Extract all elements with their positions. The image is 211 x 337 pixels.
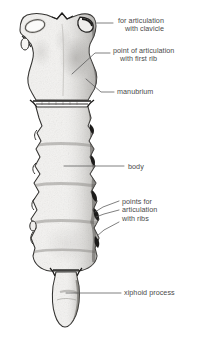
- label-point-of-articulation-with-first-rib: point of articulationwith first rib: [113, 47, 174, 64]
- label-xiphoid-process: xiphoid process: [124, 289, 175, 297]
- sternum-body-shape: [28, 104, 104, 276]
- costal-notch-left-facet: [30, 221, 36, 231]
- label-manubrium: manubrium: [117, 88, 153, 96]
- label-body: body: [128, 163, 144, 171]
- label-line: with first rib: [113, 55, 174, 63]
- sternum-figure: [0, 0, 211, 337]
- label-line: manubrium: [117, 88, 153, 96]
- label-line: xiphoid process: [124, 289, 175, 297]
- label-line: with clavicle: [118, 25, 164, 33]
- label-line: with ribs: [122, 215, 157, 223]
- label-line: body: [128, 163, 144, 171]
- label-points-for-articulation-with-ribs: points forarticulationwith ribs: [122, 198, 157, 223]
- label-for-articulation-with-clavicle: for articulationwith clavicle: [118, 17, 164, 34]
- canvas-background: [0, 0, 211, 337]
